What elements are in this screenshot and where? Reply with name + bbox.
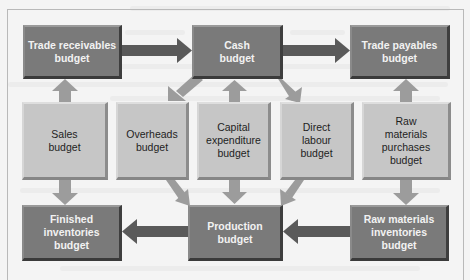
label-line: budget [300, 147, 332, 160]
trade-receivables-budget-label: Trade receivables budget [28, 39, 116, 65]
arrow-overheads-to-production [166, 180, 190, 206]
finished-inventories-budget-label: Finished inventories budget [43, 213, 99, 252]
label-line: Trade receivables [28, 39, 116, 52]
raw-materials-purchases-budget-label: Raw materials purchases budget [382, 115, 430, 167]
arrow-raw-inventories-to-production [283, 219, 350, 244]
label-line: labour [300, 134, 332, 147]
raw-materials-inventories-budget-box: Raw materials inventories budget [350, 205, 449, 261]
trade-payables-budget-label: Trade payables budget [362, 39, 438, 65]
label-line: Overheads [126, 128, 177, 141]
overheads-budget-box: Overheads budget [116, 102, 189, 180]
arrow-raw-purchases-to-raw-inventories [393, 180, 419, 205]
arrow-sales-to-trade-receivables [52, 79, 78, 103]
direct-labour-budget-box: Direct labour budget [280, 102, 354, 180]
production-budget-label: Production budget [207, 220, 262, 246]
label-line: budget [48, 141, 80, 154]
label-line: Raw materials [364, 213, 435, 226]
cash-budget-label: Cash budget [220, 39, 255, 65]
label-line: expenditure [206, 134, 261, 147]
label-line: Direct [300, 121, 332, 134]
label-line: Cash [220, 39, 255, 52]
capital-expenditure-budget-box: Capital expenditure budget [197, 102, 271, 180]
arrow-cash-to-trade-payables [283, 38, 350, 63]
label-line: Finished [43, 213, 99, 226]
finished-inventories-budget-box: Finished inventories budget [22, 205, 122, 261]
arrow-direct-labour-to-production [280, 180, 304, 206]
label-line: Capital [206, 121, 261, 134]
arrow-raw-purchases-to-trade-payables [393, 79, 419, 103]
raw-materials-purchases-budget-box: Raw materials purchases budget [362, 102, 451, 180]
label-line: budget [382, 154, 430, 167]
direct-labour-budget-label: Direct labour budget [300, 121, 332, 160]
label-line: budget [126, 141, 177, 154]
arrow-capital-to-production [222, 180, 247, 204]
label-line: Production [207, 220, 262, 233]
label-line: Raw [382, 115, 430, 128]
label-line: budget [362, 52, 438, 65]
cash-budget-box: Cash budget [192, 25, 283, 79]
arrow-trade-receivables-to-cash [122, 38, 192, 63]
label-line: Trade payables [362, 39, 438, 52]
label-line: budget [220, 52, 255, 65]
label-line: inventories [364, 226, 435, 239]
label-line: budget [28, 52, 116, 65]
arrow-production-to-finished-inventories [122, 219, 188, 244]
sales-budget-label: Sales budget [48, 128, 80, 154]
arrow-capital-to-cash [222, 80, 247, 102]
production-budget-box: Production budget [188, 205, 283, 261]
label-line: budget [43, 239, 99, 252]
label-line: Sales [48, 128, 80, 141]
overheads-budget-label: Overheads budget [126, 128, 177, 154]
arrow-sales-to-finished-inventories [52, 180, 78, 205]
label-line: budget [364, 239, 435, 252]
label-line: inventories [43, 226, 99, 239]
trade-receivables-budget-box: Trade receivables budget [23, 25, 122, 79]
label-line: budget [206, 147, 261, 160]
raw-materials-inventories-budget-label: Raw materials inventories budget [364, 213, 435, 252]
label-line: budget [207, 233, 262, 246]
capital-expenditure-budget-label: Capital expenditure budget [206, 121, 261, 160]
label-line: materials [382, 128, 430, 141]
sales-budget-box: Sales budget [22, 102, 108, 180]
trade-payables-budget-box: Trade payables budget [350, 25, 450, 79]
label-line: purchases [382, 141, 430, 154]
